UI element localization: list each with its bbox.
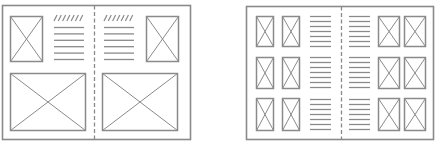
hatch-stroke xyxy=(75,15,78,21)
hatch-stroke xyxy=(125,15,128,21)
text-lines-block xyxy=(349,100,370,130)
image-placeholder-icon xyxy=(379,58,400,89)
hatch-stroke xyxy=(108,15,111,21)
hatch-stroke xyxy=(63,15,66,21)
text-lines-block xyxy=(310,17,331,47)
image-placeholder-icon xyxy=(283,17,300,47)
image-placeholder-icon xyxy=(257,17,274,47)
image-placeholder-icon xyxy=(379,17,400,47)
hatch-stroke xyxy=(117,15,120,21)
hatch-stroke xyxy=(130,15,133,21)
layout-diagram xyxy=(0,0,435,145)
hatch-stroke xyxy=(71,15,74,21)
image-placeholder-icon xyxy=(405,58,426,89)
hatch-stroke xyxy=(58,15,61,21)
image-placeholder-icon xyxy=(11,17,43,62)
layout-two-page-spread-grid xyxy=(247,7,434,140)
hatch-stroke xyxy=(67,15,70,21)
image-placeholder-icon xyxy=(257,99,274,131)
hatch-stroke xyxy=(80,15,83,21)
image-placeholder-icon xyxy=(379,99,400,131)
image-placeholder-icon xyxy=(103,74,178,131)
layout-two-page-spread-large-images xyxy=(3,6,191,140)
headline-hatch xyxy=(104,15,133,21)
text-lines-block xyxy=(310,100,331,130)
image-placeholder-icon xyxy=(405,99,426,131)
hatch-stroke xyxy=(104,15,107,21)
text-lines-block xyxy=(54,28,84,60)
image-placeholder-icon xyxy=(283,58,300,89)
text-lines-block xyxy=(310,58,331,88)
image-placeholder-icon xyxy=(283,99,300,131)
hatch-stroke xyxy=(121,15,124,21)
text-lines-block xyxy=(349,17,370,47)
text-lines-block xyxy=(104,28,134,60)
headline-hatch xyxy=(54,15,83,21)
hatch-stroke xyxy=(113,15,116,21)
hatch-stroke xyxy=(54,15,57,21)
page-frame xyxy=(247,7,434,140)
image-placeholder-icon xyxy=(11,74,86,131)
image-placeholder-icon xyxy=(147,17,179,62)
text-lines-block xyxy=(349,58,370,88)
image-placeholder-icon xyxy=(405,17,426,47)
image-placeholder-icon xyxy=(257,58,274,89)
